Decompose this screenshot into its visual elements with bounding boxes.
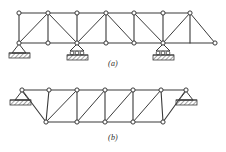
truss-b-end-post-left: [22, 90, 46, 122]
truss-b-vertical: [161, 90, 163, 122]
truss-a-diagonal: [134, 13, 163, 43]
caption-panel-a: (a): [0, 59, 226, 68]
truss-joint: [17, 11, 21, 15]
truss-b-verticals: [46, 90, 163, 122]
truss-a-diagonal: [106, 13, 134, 43]
truss-joint: [44, 120, 48, 124]
truss-a-diagonal: [77, 13, 106, 43]
truss-joint: [104, 41, 108, 45]
truss-b: [10, 88, 197, 124]
truss-joint: [188, 11, 192, 15]
truss-a-diagonal: [19, 13, 48, 43]
truss-b-support-pin: [10, 91, 31, 105]
truss-joint: [17, 41, 21, 45]
truss-joint: [132, 11, 136, 15]
truss-b-diagonals: [46, 90, 161, 122]
truss-b-diagonal: [105, 90, 133, 122]
truss-joint: [75, 88, 79, 92]
truss-joint: [161, 120, 165, 124]
truss-joint: [103, 120, 107, 124]
truss-joint: [47, 88, 51, 92]
truss-joint: [132, 41, 136, 45]
truss-a-support-pin: [9, 44, 30, 58]
truss-joint: [46, 11, 50, 15]
truss-joint: [104, 11, 108, 15]
truss-a-diagonal: [163, 13, 190, 43]
caption-panel-b: (b): [0, 133, 226, 142]
truss-joint: [159, 88, 163, 92]
truss-joint: [213, 41, 217, 45]
truss-a-verticals: [19, 13, 190, 43]
truss-joint: [46, 41, 50, 45]
truss-a-support-roller-right: [153, 44, 174, 60]
truss-b-diagonal: [46, 90, 77, 122]
truss-joint: [75, 11, 79, 15]
truss-a-support-roller-mid: [67, 44, 88, 60]
truss-a-diagonal: [190, 13, 215, 43]
truss-joint: [75, 41, 79, 45]
truss-b-diagonal: [77, 90, 105, 122]
truss-joint: [20, 88, 24, 92]
truss-joint: [103, 88, 107, 92]
truss-b-vertical: [46, 90, 49, 122]
truss-figure: (a) (b): [0, 0, 226, 152]
truss-joint: [161, 41, 165, 45]
truss-b-support-roller: [176, 91, 197, 105]
truss-diagram-canvas: [0, 0, 226, 152]
truss-a-diagonal: [48, 13, 77, 43]
truss-joint: [131, 120, 135, 124]
truss-joint: [161, 11, 165, 15]
truss-joint: [75, 120, 79, 124]
truss-a: [9, 11, 217, 60]
truss-b-diagonal: [133, 90, 161, 122]
truss-joint: [184, 88, 188, 92]
truss-joint: [131, 88, 135, 92]
